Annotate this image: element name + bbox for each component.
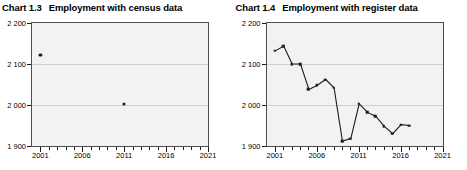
x-axis-label: 2016 <box>392 151 409 160</box>
y-axis-tick <box>27 23 31 24</box>
x-axis-tick-minor <box>133 147 134 150</box>
x-axis-label: 2011 <box>351 151 367 160</box>
data-point <box>408 124 411 127</box>
x-axis-tick-minor <box>91 147 92 150</box>
x-axis-tick-minor <box>49 147 50 150</box>
x-axis-tick-major <box>401 147 402 152</box>
x-axis-tick-major <box>317 147 318 152</box>
x-axis-tick-major <box>359 147 360 152</box>
chart-title-1-3: Chart 1.3Employment with census data <box>2 2 182 13</box>
y-axis-label: 2 200 <box>7 19 26 28</box>
x-axis-tick-minor <box>57 147 58 150</box>
data-point <box>282 45 285 48</box>
x-axis-tick-minor <box>342 147 343 150</box>
chart-number-1-4: Chart 1.4 <box>236 2 276 13</box>
x-axis-tick-minor <box>107 147 108 150</box>
y-axis-tick <box>27 146 31 147</box>
data-point <box>324 78 327 81</box>
data-point <box>383 125 386 128</box>
chart-number-1-3: Chart 1.3 <box>2 2 42 13</box>
x-axis-tick-minor <box>149 147 150 150</box>
data-point <box>357 102 360 105</box>
x-axis-tick-minor <box>141 147 142 150</box>
y-axis-label: 2 000 <box>7 101 26 110</box>
y-axis-1-4: 2 2002 1002 0001 900 <box>234 22 265 147</box>
data-point <box>307 88 310 91</box>
x-axis-tick-minor <box>384 147 385 150</box>
x-axis-label: 2001 <box>32 151 49 160</box>
data-point <box>399 123 402 126</box>
chart-title-text-1-4: Employment with register data <box>282 2 417 13</box>
data-point <box>39 53 42 56</box>
x-axis-tick-major <box>443 147 444 152</box>
x-axis-tick-minor <box>434 147 435 150</box>
x-axis-tick-major <box>124 147 125 152</box>
y-axis-label: 2 000 <box>242 101 261 110</box>
data-point <box>299 63 302 66</box>
gridline <box>32 105 208 106</box>
y-axis-tick <box>262 105 266 106</box>
x-axis-tick-minor <box>417 147 418 150</box>
chart-panel-1-3: Chart 1.3Employment with census data 2 2… <box>0 0 234 170</box>
y-axis-tick <box>262 23 266 24</box>
x-axis-label: 2006 <box>74 151 91 160</box>
x-axis-tick-minor <box>174 147 175 150</box>
x-axis-label: 2001 <box>267 151 284 160</box>
series-line <box>267 23 443 146</box>
x-axis-tick-minor <box>158 147 159 150</box>
x-axis-label: 2021 <box>200 151 217 160</box>
y-axis-label: 2 200 <box>242 19 261 28</box>
x-axis-tick-minor <box>350 147 351 150</box>
x-axis-tick-major <box>82 147 83 152</box>
y-axis-1-3: 2 2002 1002 0001 900 <box>0 22 30 147</box>
data-point <box>374 115 377 118</box>
x-axis-tick-minor <box>99 147 100 150</box>
y-axis-tick <box>262 64 266 65</box>
x-axis-label: 2021 <box>434 151 451 160</box>
x-axis-tick-major <box>208 147 209 152</box>
x-axis-tick-minor <box>200 147 201 150</box>
x-axis-tick-minor <box>392 147 393 150</box>
x-axis-label: 2011 <box>116 151 132 160</box>
x-axis-tick-minor <box>283 147 284 150</box>
x-axis-tick-minor <box>426 147 427 150</box>
data-point <box>274 50 277 53</box>
y-axis-tick <box>262 146 266 147</box>
data-point <box>349 137 352 140</box>
y-axis-tick <box>27 105 31 106</box>
x-axis-tick-minor <box>66 147 67 150</box>
x-axis-tick-minor <box>367 147 368 150</box>
chart-panel-1-4: Chart 1.4Employment with register data 2… <box>234 0 467 170</box>
x-axis-1-3: 20012006201120162021 <box>0 149 234 167</box>
y-axis-label: 2 100 <box>7 60 26 69</box>
x-axis-tick-minor <box>325 147 326 150</box>
x-axis-tick-minor <box>74 147 75 150</box>
data-point <box>332 86 335 89</box>
x-axis-tick-major <box>40 147 41 152</box>
y-axis-label: 2 100 <box>242 60 261 69</box>
x-axis-tick-minor <box>183 147 184 150</box>
plot-area-1-4 <box>266 22 444 147</box>
x-axis-tick-minor <box>334 147 335 150</box>
x-axis-tick-minor <box>375 147 376 150</box>
x-axis-tick-major <box>166 147 167 152</box>
gridline <box>32 64 208 65</box>
x-axis-tick-minor <box>300 147 301 150</box>
chart-title-1-4: Chart 1.4Employment with register data <box>236 2 418 13</box>
x-axis-tick-minor <box>292 147 293 150</box>
plot-area-1-3 <box>31 22 209 147</box>
data-point <box>341 140 344 143</box>
x-axis-label: 2006 <box>308 151 325 160</box>
x-axis-1-4: 20012006201120162021 <box>234 149 467 167</box>
x-axis-tick-minor <box>191 147 192 150</box>
x-axis-tick-minor <box>409 147 410 150</box>
data-point <box>290 63 293 66</box>
data-point <box>391 132 394 135</box>
data-point <box>366 111 369 114</box>
y-axis-tick <box>27 64 31 65</box>
chart-title-text-1-3: Employment with census data <box>49 2 183 13</box>
x-axis-tick-minor <box>116 147 117 150</box>
x-axis-label: 2016 <box>158 151 175 160</box>
charts-container: Chart 1.3Employment with census data 2 2… <box>0 0 467 170</box>
x-axis-tick-minor <box>308 147 309 150</box>
